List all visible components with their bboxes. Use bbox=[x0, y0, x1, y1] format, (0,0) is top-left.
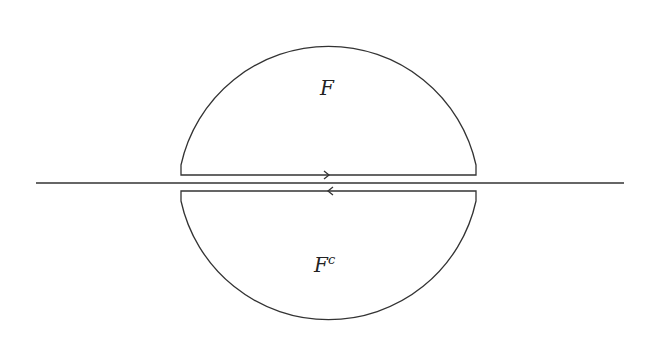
diagram-canvas: F Fc bbox=[0, 0, 652, 362]
region-label-fc-base: F bbox=[313, 253, 329, 277]
region-label-f: F bbox=[319, 76, 335, 100]
upper-half-contour bbox=[181, 46, 476, 175]
region-label-fc-superscript: c bbox=[328, 252, 336, 267]
region-label-fc: Fc bbox=[313, 252, 336, 277]
